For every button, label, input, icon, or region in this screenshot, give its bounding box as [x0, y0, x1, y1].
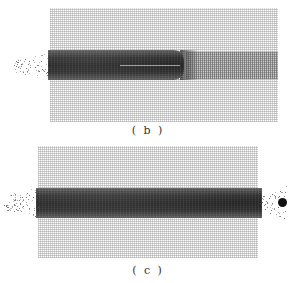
debris-particle [21, 211, 22, 212]
debris-particle [275, 196, 276, 197]
debris-particle [37, 75, 38, 76]
debris-particle [274, 209, 275, 210]
debris-particle [37, 198, 38, 199]
debris-particle [33, 197, 34, 198]
debris-particle [285, 192, 286, 193]
debris-particle [44, 54, 45, 55]
debris-particle [17, 210, 18, 211]
debris-particle [27, 72, 28, 73]
debris-particle [22, 197, 23, 198]
debris-particle [278, 207, 279, 208]
debris-particle [12, 206, 13, 207]
debris-particle [35, 67, 36, 68]
debris-particle [7, 205, 8, 206]
debris-particle [38, 65, 39, 66]
debris-particle [35, 192, 36, 193]
debris-particle [49, 59, 50, 60]
debris-particle [23, 208, 24, 209]
debris-particle [260, 203, 261, 204]
debris-particle [275, 192, 276, 193]
panel-c-penetrated-band [36, 188, 262, 218]
debris-particle [279, 213, 280, 214]
debris-particle [47, 75, 48, 76]
debris-particle [261, 205, 262, 206]
debris-particle [38, 70, 39, 71]
debris-particle [36, 211, 37, 212]
debris-particle [31, 189, 32, 190]
debris-particle [11, 195, 12, 196]
debris-particle [34, 208, 35, 209]
debris-particle [22, 63, 23, 64]
debris-particle [46, 64, 47, 65]
debris-particle [27, 193, 28, 194]
debris-particle [18, 60, 19, 61]
debris-particle [41, 61, 42, 62]
debris-particle [17, 62, 18, 63]
debris-particle [33, 60, 34, 61]
debris-particle [15, 205, 16, 206]
debris-particle [27, 205, 28, 206]
debris-particle [47, 58, 48, 59]
debris-particle [20, 60, 21, 61]
debris-particle [272, 203, 273, 204]
debris-particle [271, 210, 272, 211]
debris-particle [8, 205, 9, 206]
debris-particle [23, 72, 24, 73]
debris-particle [24, 61, 25, 62]
panel-b-label: ( b ) [118, 124, 178, 137]
debris-particle [270, 196, 271, 197]
panel-b-undamaged-band [186, 52, 278, 79]
debris-particle [47, 72, 48, 73]
debris-particle [29, 61, 30, 62]
debris-particle [275, 197, 276, 198]
debris-particle [282, 192, 283, 193]
debris-particle [9, 209, 10, 210]
debris-particle [262, 202, 263, 203]
debris-particle [23, 206, 24, 207]
debris-particle [28, 70, 29, 71]
panel-b-debris-scatter [14, 52, 50, 80]
debris-particle [272, 194, 273, 195]
debris-particle [26, 197, 27, 198]
debris-particle [20, 203, 21, 204]
debris-particle [15, 197, 16, 198]
debris-particle [19, 208, 20, 209]
debris-particle [46, 73, 47, 74]
debris-particle [36, 70, 37, 71]
debris-particle [6, 206, 7, 207]
debris-particle [28, 69, 29, 70]
debris-particle [21, 66, 22, 67]
debris-particle [264, 205, 265, 206]
panel-b: ( b ) [0, 0, 296, 140]
debris-particle [28, 199, 29, 200]
debris-particle [7, 207, 8, 208]
debris-particle [4, 205, 5, 206]
debris-particle [49, 54, 50, 55]
debris-particle [45, 69, 46, 70]
debris-particle [14, 211, 15, 212]
debris-particle [13, 199, 14, 200]
panel-c-label: ( c ) [118, 264, 178, 277]
debris-particle [20, 71, 21, 72]
debris-particle [20, 195, 21, 196]
debris-particle [35, 216, 36, 217]
debris-particle [270, 213, 271, 214]
debris-particle [272, 208, 273, 209]
debris-particle [20, 197, 21, 198]
debris-particle [285, 211, 286, 212]
debris-particle [38, 207, 39, 208]
debris-particle [21, 64, 22, 65]
debris-particle [278, 197, 279, 198]
debris-particle [18, 62, 19, 63]
debris-particle [34, 62, 35, 63]
debris-particle [15, 63, 16, 64]
debris-particle [28, 64, 29, 65]
debris-particle [29, 213, 30, 214]
debris-particle [15, 69, 16, 70]
debris-particle [25, 74, 26, 75]
debris-particle [33, 215, 34, 216]
projectile-ball [278, 198, 287, 207]
debris-particle [286, 186, 287, 187]
debris-particle [47, 72, 48, 73]
debris-particle [34, 210, 35, 211]
